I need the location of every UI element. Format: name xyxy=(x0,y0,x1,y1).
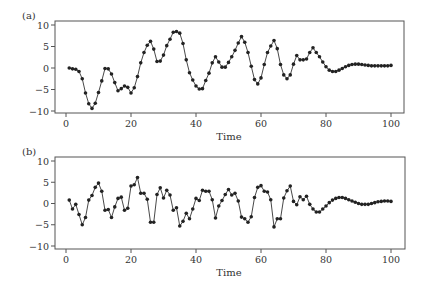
data-point xyxy=(379,200,383,204)
chart-canvas: (a) 1050−5−10 020406080100 Time (b) 1050… xyxy=(0,0,425,282)
data-point xyxy=(201,189,205,193)
data-point xyxy=(178,224,182,228)
data-point xyxy=(275,47,279,51)
data-point xyxy=(217,60,221,64)
data-point xyxy=(129,184,133,188)
x-tick-label: 80 xyxy=(320,118,332,129)
data-point xyxy=(123,84,127,88)
y-tick-label: 10 xyxy=(37,20,49,31)
data-point xyxy=(266,51,270,55)
data-point xyxy=(162,196,166,200)
data-point xyxy=(350,199,354,203)
data-point xyxy=(158,186,162,190)
data-point xyxy=(269,198,273,202)
data-point xyxy=(246,51,250,55)
data-point xyxy=(243,40,247,44)
data-point xyxy=(119,87,123,91)
data-point xyxy=(240,35,244,39)
panel-a-label: (a) xyxy=(22,10,36,21)
data-point xyxy=(321,60,325,64)
data-point xyxy=(149,40,153,44)
data-point xyxy=(110,72,114,76)
data-point xyxy=(386,64,390,68)
data-point xyxy=(376,200,380,204)
data-point xyxy=(168,193,172,197)
data-point xyxy=(178,31,182,35)
data-point xyxy=(249,215,253,219)
data-point xyxy=(84,91,88,95)
data-point xyxy=(106,67,110,71)
data-point xyxy=(314,210,318,214)
data-point xyxy=(318,55,322,59)
data-point xyxy=(233,49,237,53)
data-point xyxy=(334,197,338,201)
data-point xyxy=(331,70,335,74)
data-point xyxy=(288,73,292,77)
data-point xyxy=(87,102,91,106)
data-point xyxy=(253,78,257,82)
data-point xyxy=(116,197,120,201)
data-point xyxy=(126,206,130,210)
data-point xyxy=(366,203,370,207)
data-point xyxy=(366,64,370,68)
data-point xyxy=(77,70,81,74)
data-point xyxy=(230,55,234,59)
data-point xyxy=(243,217,247,221)
data-point xyxy=(152,47,156,51)
figure: (a) 1050−5−10 020406080100 Time (b) 1050… xyxy=(0,0,425,282)
data-point xyxy=(318,210,322,214)
data-point xyxy=(165,189,169,193)
data-point xyxy=(256,186,260,190)
data-point xyxy=(171,31,175,35)
data-point xyxy=(337,196,341,200)
data-point xyxy=(71,67,75,71)
data-point xyxy=(106,208,110,212)
data-point xyxy=(80,77,84,81)
x-tick-label: 20 xyxy=(125,254,137,265)
data-point xyxy=(288,184,292,188)
data-point xyxy=(171,209,175,213)
data-point xyxy=(308,203,312,207)
data-point xyxy=(314,51,318,55)
data-point xyxy=(298,195,302,199)
data-point xyxy=(253,196,257,200)
data-point xyxy=(344,197,348,201)
panel-a-y-axis: 1050−5−10 xyxy=(29,20,55,117)
data-point xyxy=(142,51,146,55)
data-point xyxy=(194,197,198,201)
data-point xyxy=(370,64,374,68)
data-point xyxy=(360,63,364,67)
y-tick-label: −10 xyxy=(29,241,49,252)
data-point xyxy=(298,58,302,62)
x-tick-label: 80 xyxy=(320,254,332,265)
data-point xyxy=(269,44,273,48)
data-point xyxy=(227,188,231,192)
data-point xyxy=(331,198,335,202)
data-point xyxy=(77,213,81,217)
data-point xyxy=(389,200,393,204)
data-point xyxy=(71,207,75,211)
y-tick-label: −5 xyxy=(35,84,49,95)
data-point xyxy=(282,196,286,200)
data-point xyxy=(67,66,71,70)
data-point xyxy=(275,217,279,221)
data-point xyxy=(230,193,234,197)
data-point xyxy=(191,207,195,211)
panel-b-frame xyxy=(55,157,405,249)
data-point xyxy=(103,209,107,213)
x-tick-label: 60 xyxy=(255,254,267,265)
data-point xyxy=(262,63,266,67)
panel-b: (b) 1050−5−10 020406080100 Time xyxy=(22,146,405,278)
data-point xyxy=(350,63,354,67)
data-point xyxy=(74,203,78,207)
y-tick-label: 5 xyxy=(43,177,49,188)
data-point xyxy=(262,189,266,193)
data-point xyxy=(259,76,263,80)
data-point xyxy=(321,207,325,211)
data-point xyxy=(337,68,341,72)
data-point xyxy=(194,84,198,88)
data-point xyxy=(191,78,195,82)
data-point xyxy=(233,192,237,196)
data-point xyxy=(340,196,344,200)
data-point xyxy=(347,198,351,202)
